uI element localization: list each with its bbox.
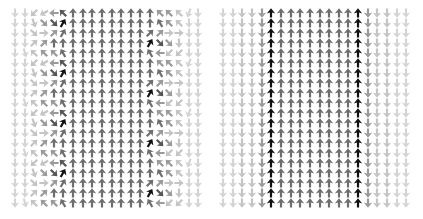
arrow-icon — [257, 58, 267, 68]
arrow-icon — [174, 38, 184, 48]
arrow-icon — [228, 198, 238, 208]
arrow-icon — [107, 148, 117, 158]
arrow-icon — [126, 98, 136, 108]
arrow-icon — [247, 98, 257, 108]
arrow-icon — [218, 158, 228, 168]
arrow-icon — [228, 78, 238, 88]
arrow-icon — [286, 68, 296, 78]
arrow-icon — [237, 48, 247, 58]
arrow-icon — [135, 138, 145, 148]
arrow-icon — [372, 198, 382, 208]
arrow-icon — [343, 48, 353, 58]
arrow-icon — [49, 78, 59, 88]
arrow-icon — [334, 168, 344, 178]
arrow-icon — [87, 78, 97, 88]
arrow-icon — [184, 88, 194, 98]
arrow-icon — [237, 68, 247, 78]
arrow-icon — [247, 88, 257, 98]
vector-field-panel-left — [10, 8, 206, 212]
arrow-icon — [39, 178, 49, 188]
arrow-icon — [20, 198, 30, 208]
arrow-icon — [218, 128, 228, 138]
arrow-icon — [126, 178, 136, 188]
arrow-icon — [10, 98, 20, 108]
arrow-icon — [353, 58, 363, 68]
arrow-icon — [353, 68, 363, 78]
arrow-icon — [276, 98, 286, 108]
arrow-icon — [68, 158, 78, 168]
arrow-icon — [49, 28, 59, 38]
arrow-icon — [145, 138, 155, 148]
arrow-icon — [193, 188, 203, 198]
arrow-icon — [49, 128, 59, 138]
arrow-icon — [372, 168, 382, 178]
arrow-icon — [343, 38, 353, 48]
arrow-icon — [135, 88, 145, 98]
arrow-icon — [305, 88, 315, 98]
arrow-icon — [218, 18, 228, 28]
arrow-icon — [276, 8, 286, 18]
arrow-icon — [257, 158, 267, 168]
arrow-icon — [237, 8, 247, 18]
arrow-icon — [184, 48, 194, 58]
arrow-icon — [237, 138, 247, 148]
arrow-icon — [237, 58, 247, 68]
arrow-icon — [97, 38, 107, 48]
arrow-icon — [116, 28, 126, 38]
arrow-icon — [78, 68, 88, 78]
arrow-icon — [382, 188, 392, 198]
arrow-icon — [372, 128, 382, 138]
arrow-icon — [184, 138, 194, 148]
arrow-icon — [372, 58, 382, 68]
arrow-icon — [343, 28, 353, 38]
arrow-icon — [29, 8, 39, 18]
arrow-icon — [78, 78, 88, 88]
arrow-icon — [276, 178, 286, 188]
arrow-icon — [286, 158, 296, 168]
arrow-icon — [218, 88, 228, 98]
arrow-icon — [276, 138, 286, 148]
arrow-icon — [286, 168, 296, 178]
arrow-icon — [343, 188, 353, 198]
arrow-icon — [276, 198, 286, 208]
arrow-icon — [315, 88, 325, 98]
arrow-icon — [372, 118, 382, 128]
arrow-icon — [135, 198, 145, 208]
arrow-icon — [257, 128, 267, 138]
arrow-icon — [10, 158, 20, 168]
arrow-icon — [324, 88, 334, 98]
arrow-icon — [315, 198, 325, 208]
arrow-icon — [392, 48, 402, 58]
arrow-icon — [324, 78, 334, 88]
arrow-icon — [29, 98, 39, 108]
arrow-icon — [174, 48, 184, 58]
arrow-icon — [78, 178, 88, 188]
arrow-icon — [237, 108, 247, 118]
arrow-icon — [39, 78, 49, 88]
arrow-icon — [126, 38, 136, 48]
arrow-icon — [58, 28, 68, 38]
arrow-icon — [29, 118, 39, 128]
arrow-icon — [184, 168, 194, 178]
arrow-icon — [164, 178, 174, 188]
arrow-icon — [87, 178, 97, 188]
arrow-icon — [49, 198, 59, 208]
arrow-icon — [97, 158, 107, 168]
arrow-icon — [392, 168, 402, 178]
arrow-icon — [266, 108, 276, 118]
arrow-icon — [155, 98, 165, 108]
arrow-icon — [334, 88, 344, 98]
arrow-icon — [78, 168, 88, 178]
arrow-icon — [315, 78, 325, 88]
arrow-icon — [228, 108, 238, 118]
arrow-icon — [193, 88, 203, 98]
arrow-icon — [58, 58, 68, 68]
arrow-icon — [382, 88, 392, 98]
arrow-icon — [78, 18, 88, 28]
arrow-icon — [145, 158, 155, 168]
arrow-icon — [145, 38, 155, 48]
arrow-icon — [353, 98, 363, 108]
arrow-icon — [276, 68, 286, 78]
arrow-icon — [266, 158, 276, 168]
arrow-icon — [228, 98, 238, 108]
